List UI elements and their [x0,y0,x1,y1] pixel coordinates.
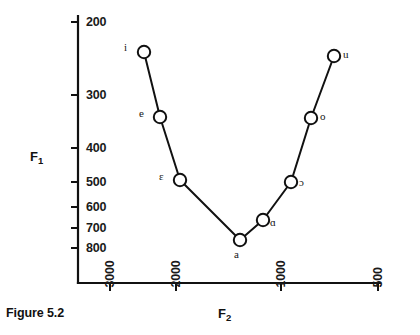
vowel-formant-plot [0,0,420,335]
vowel-symbol-label: a [234,249,239,260]
y-tick-label: 700 [86,222,106,235]
y-axis-title: F1 [30,150,43,163]
vowel-symbol-label: o [320,111,326,122]
y-tick-label: 500 [86,176,106,189]
x-axis-title-letter: F [218,306,226,321]
vowel-data-point [257,214,269,226]
y-tick-label: 800 [86,242,106,255]
vowel-data-point [174,174,186,186]
x-tick-label: 2000 [170,260,183,287]
vowel-symbol-label: ɛ [159,171,164,182]
y-axis-title-subscript: 1 [38,155,43,166]
x-tick-label: 1000 [275,260,288,287]
figure-container: 200300400500600700800 300020001000500 ie… [0,0,420,335]
vowel-symbol-label: e [139,108,144,119]
vowel-symbol-label: ɔ [299,177,304,188]
vowel-symbol-label: ɑ [270,217,276,228]
vowel-data-point [285,176,297,188]
x-axis-title-subscript: 2 [226,312,231,323]
vowel-data-point [138,46,150,58]
y-tick-label: 400 [86,142,106,155]
y-axis-title-letter: F [30,149,38,164]
vowel-symbol-label: u [343,49,349,60]
vowel-data-point [328,50,340,62]
x-axis-title: F2 [218,307,231,320]
y-tick-label: 300 [86,89,106,102]
x-tick-label: 3000 [104,260,117,287]
vowel-data-point [234,234,246,246]
vowel-data-point [305,112,317,124]
figure-caption: Figure 5.2 [6,306,64,320]
vowel-symbol-label: i [124,42,127,53]
vowel-data-point [154,111,166,123]
vowel-connecting-line [144,52,334,240]
x-tick-label: 500 [372,267,385,287]
y-tick-label: 600 [86,201,106,214]
y-tick-label: 200 [86,16,106,29]
